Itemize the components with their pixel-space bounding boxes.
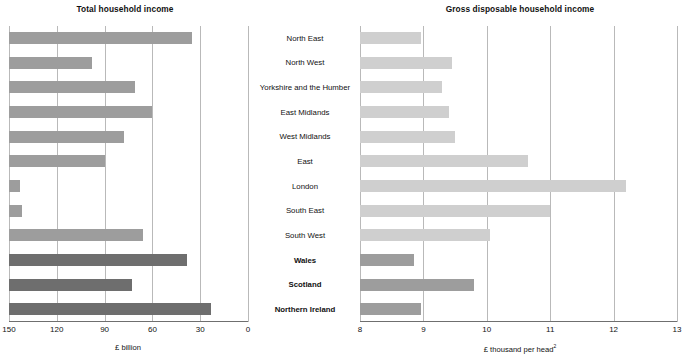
category-label: South West — [250, 223, 360, 248]
axis-tick-label: 10 — [472, 325, 502, 334]
bar — [9, 57, 92, 69]
bar-row — [9, 51, 248, 76]
bar — [9, 254, 187, 266]
bar — [360, 32, 421, 44]
bar — [360, 254, 414, 266]
category-label: Scotland — [250, 273, 360, 298]
left-plot-area — [9, 26, 248, 322]
bar-row — [360, 26, 677, 51]
bar-row — [9, 75, 248, 100]
gridline — [248, 26, 249, 322]
bar-row — [360, 149, 677, 174]
bar — [360, 106, 449, 118]
category-label: North West — [250, 51, 360, 76]
bar-row — [360, 297, 677, 322]
right-axis-title: £ thousand per head2 — [440, 343, 600, 354]
bar — [9, 180, 20, 192]
bar — [360, 155, 528, 167]
bar-row — [360, 248, 677, 273]
bar — [9, 106, 152, 118]
bar-row — [9, 149, 248, 174]
bar-row — [9, 26, 248, 51]
category-label: South East — [250, 199, 360, 224]
left-axis-title: £ billion — [48, 343, 208, 352]
bar — [360, 81, 442, 93]
bar-row — [360, 273, 677, 298]
gridline — [677, 26, 678, 322]
bar-row — [360, 100, 677, 125]
bar-row — [9, 100, 248, 125]
chart-figure: Total household income Gross disposable … — [0, 0, 682, 362]
bar-row — [9, 248, 248, 273]
bar — [9, 205, 22, 217]
bar — [360, 180, 626, 192]
axis-tick-label: 13 — [662, 325, 682, 334]
category-label: Yorkshire and the Humber — [250, 75, 360, 100]
bar — [9, 81, 135, 93]
bar — [9, 229, 143, 241]
category-label: London — [250, 174, 360, 199]
category-label: West Midlands — [250, 125, 360, 150]
bar-row — [360, 125, 677, 150]
bar — [9, 303, 211, 315]
bar — [360, 303, 421, 315]
right-plot-area — [360, 26, 677, 322]
bar — [360, 205, 550, 217]
bar-row — [9, 199, 248, 224]
right-panel-title: Gross disposable household income — [358, 4, 682, 14]
category-label: East Midlands — [250, 100, 360, 125]
axis-tick-label: 11 — [535, 325, 565, 334]
right-axis-title-text: £ thousand per head — [484, 345, 554, 354]
bar-row — [9, 125, 248, 150]
axis-tick-label: 9 — [408, 325, 438, 334]
bar — [9, 155, 105, 167]
right-x-axis-ticks: 8910111213 — [0, 325, 682, 339]
axis-tick-label: 12 — [599, 325, 629, 334]
bar-row — [360, 75, 677, 100]
bar-row — [360, 174, 677, 199]
category-label: East — [250, 149, 360, 174]
bar — [9, 131, 124, 143]
bar-row — [360, 199, 677, 224]
left-panel-title: Total household income — [0, 4, 250, 14]
bar-row — [9, 297, 248, 322]
bar — [360, 229, 490, 241]
bar-row — [360, 51, 677, 76]
category-label-column: North EastNorth WestYorkshire and the Hu… — [250, 26, 360, 322]
category-label: Wales — [250, 248, 360, 273]
category-label: North East — [250, 26, 360, 51]
axis-tick-label: 8 — [345, 325, 375, 334]
bar-row — [9, 174, 248, 199]
category-label: Northern Ireland — [250, 297, 360, 322]
bar — [9, 32, 192, 44]
bar-row — [360, 223, 677, 248]
right-axis-footnote-marker: 2 — [553, 343, 556, 349]
bar — [360, 131, 455, 143]
bar — [360, 57, 452, 69]
bar — [360, 279, 474, 291]
bar-row — [9, 273, 248, 298]
bar-row — [9, 223, 248, 248]
bar — [9, 279, 132, 291]
